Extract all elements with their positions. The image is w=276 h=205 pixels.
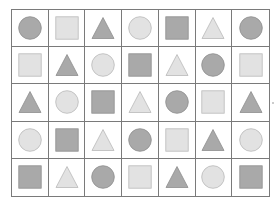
grid-cell: [122, 47, 159, 84]
grid-cell: [122, 159, 159, 196]
grid-cell: [49, 84, 86, 121]
grid-cell: [232, 10, 269, 47]
dark-square-icon: [55, 128, 79, 152]
light-triangle-icon: [165, 53, 189, 77]
light-circle-icon: [18, 128, 42, 152]
dark-triangle-icon: [201, 128, 225, 152]
dark-triangle-icon: [91, 16, 115, 40]
grid-cell: [196, 47, 233, 84]
grid-cell: [12, 122, 49, 159]
dark-square-icon: [91, 90, 115, 114]
grid-cell: [49, 10, 86, 47]
light-square-icon: [201, 90, 225, 114]
dark-circle-icon: [201, 53, 225, 77]
grid-cell: [49, 47, 86, 84]
grid-cell: [159, 159, 196, 196]
grid-cell: [159, 10, 196, 47]
dark-square-icon: [128, 53, 152, 77]
grid-cell: [232, 122, 269, 159]
dark-triangle-icon: [55, 53, 79, 77]
grid-cell: [232, 159, 269, 196]
grid-cell: [232, 47, 269, 84]
grid-cell: [159, 84, 196, 121]
grid-cell: [196, 84, 233, 121]
dark-triangle-icon: [165, 165, 189, 189]
dark-circle-icon: [239, 16, 263, 40]
shape-pattern-grid: [11, 9, 270, 197]
grid-cell: [122, 122, 159, 159]
light-square-icon: [55, 16, 79, 40]
grid-cell: [12, 159, 49, 196]
grid-cell: [196, 159, 233, 196]
dark-circle-icon: [128, 128, 152, 152]
light-circle-icon: [128, 16, 152, 40]
grid-cell: [12, 84, 49, 121]
grid-cell: [85, 122, 122, 159]
grid-cell: [232, 84, 269, 121]
grid-cell: [12, 47, 49, 84]
grid-cell: [196, 10, 233, 47]
dark-triangle-icon: [239, 90, 263, 114]
light-circle-icon: [201, 165, 225, 189]
grid-cell: [122, 10, 159, 47]
dark-square-icon: [165, 16, 189, 40]
grid-cell: [12, 10, 49, 47]
dark-circle-icon: [18, 16, 42, 40]
dark-circle-icon: [165, 90, 189, 114]
light-square-icon: [239, 53, 263, 77]
light-triangle-icon: [55, 165, 79, 189]
light-circle-icon: [55, 90, 79, 114]
grid-cell: [196, 122, 233, 159]
dark-square-icon: [239, 165, 263, 189]
grid-cell: [49, 159, 86, 196]
light-circle-icon: [239, 128, 263, 152]
grid-cell: [49, 122, 86, 159]
grid-cell: [159, 122, 196, 159]
dark-circle-icon: [91, 165, 115, 189]
dark-square-icon: [18, 165, 42, 189]
grid-cell: [159, 47, 196, 84]
grid-cell: [122, 84, 159, 121]
light-triangle-icon: [91, 128, 115, 152]
grid-cell: [85, 84, 122, 121]
grid-cell: [85, 10, 122, 47]
light-square-icon: [128, 165, 152, 189]
light-triangle-icon: [128, 90, 152, 114]
grid-cell: [85, 159, 122, 196]
stray-mark: [272, 102, 274, 104]
light-square-icon: [18, 53, 42, 77]
dark-triangle-icon: [18, 90, 42, 114]
light-triangle-icon: [201, 16, 225, 40]
light-circle-icon: [91, 53, 115, 77]
grid-cell: [85, 47, 122, 84]
light-square-icon: [165, 128, 189, 152]
